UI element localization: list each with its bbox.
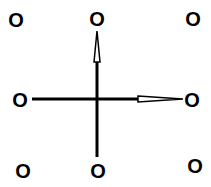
atom-top-right: O — [185, 9, 201, 29]
atom-middle-left: O — [12, 90, 28, 110]
up-wedge-arrow — [94, 31, 100, 62]
atom-top-left: O — [8, 10, 24, 30]
atom-bottom-right: O — [187, 156, 203, 176]
bonds-layer — [0, 0, 211, 187]
right-wedge-arrow — [138, 96, 183, 102]
diagram-canvas: O O O O O O O O — [0, 0, 211, 187]
atom-bottom-left: O — [15, 161, 31, 181]
atom-middle-right: O — [184, 90, 200, 110]
atom-top-center: O — [89, 9, 105, 29]
atom-bottom-center: O — [90, 161, 106, 181]
